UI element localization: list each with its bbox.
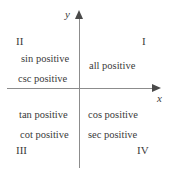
quadrant-4-function-1: cos positive [88, 110, 138, 121]
x-axis-label: x [157, 93, 162, 104]
quadrant-1-function-1: all positive [89, 61, 135, 72]
y-axis-label: y [65, 9, 70, 20]
quadrant-1-numeral: I [142, 36, 146, 47]
quadrant-2-numeral: II [16, 36, 23, 47]
y-axis-arrowhead-icon [75, 10, 83, 19]
x-axis-arrowhead-icon [152, 84, 161, 92]
quadrant-3-function-2: cot positive [20, 130, 69, 141]
quadrant-4-function-2: sec positive [88, 130, 137, 141]
quadrant-4-numeral: IV [137, 145, 149, 156]
x-axis-line [7, 88, 154, 89]
quadrant-3-function-1: tan positive [19, 110, 68, 121]
quadrant-3-numeral: III [16, 145, 27, 156]
quadrant-2-function-2: csc positive [18, 74, 67, 85]
quadrant-sign-diagram: y x I all positive II sin positive csc p… [0, 0, 171, 173]
y-axis-line [79, 18, 80, 168]
quadrant-2-function-1: sin positive [21, 54, 69, 65]
